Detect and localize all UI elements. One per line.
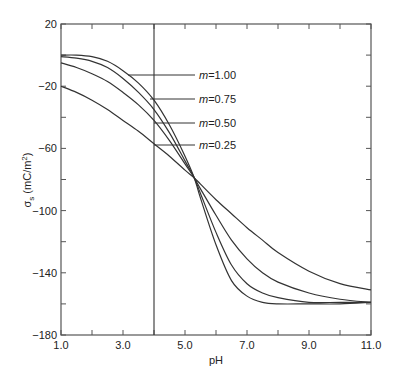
y-tick-label: 20 <box>45 18 57 30</box>
x-tick-label: 7.0 <box>239 339 254 351</box>
legend-label: m=0.75 <box>199 93 236 105</box>
y-tick-label: −100 <box>32 205 57 217</box>
y-tick-label: −20 <box>38 80 57 92</box>
legend-label: m=0.50 <box>199 117 236 129</box>
y-tick-label: −180 <box>32 329 57 341</box>
x-tick-label: 3.0 <box>115 339 130 351</box>
legend-label-variable: m <box>199 139 208 151</box>
y-tick-label: −140 <box>32 267 57 279</box>
legend-label-value: =0.25 <box>208 139 236 151</box>
chart: 1.03.05.07.09.011.0 20−20−60−100−140−180… <box>0 0 400 383</box>
x-tick-label: 11.0 <box>361 339 382 351</box>
legend-label-value: =1.00 <box>208 69 236 81</box>
legend-label-variable: m <box>199 117 208 129</box>
y-axis-label-close: ) <box>21 153 33 157</box>
legend-label-value: =0.75 <box>208 93 236 105</box>
y-axis-tick-labels: 20−20−60−100−140−180 <box>32 18 57 341</box>
x-tick-label: 5.0 <box>177 339 192 351</box>
x-tick-label: 9.0 <box>301 339 316 351</box>
x-axis-tick-labels: 1.03.05.07.09.011.0 <box>53 339 381 351</box>
x-axis-label: pH <box>209 354 223 366</box>
y-tick-label: −60 <box>38 142 57 154</box>
legend-label-value: =0.50 <box>208 117 236 129</box>
legend-label-variable: m <box>199 69 208 81</box>
y-axis-label: σs (mC/m2) <box>20 153 36 208</box>
y-axis-label-unit: (mC/m <box>21 161 33 197</box>
legend-label: m=0.25 <box>199 139 236 151</box>
legend-label: m=1.00 <box>199 69 236 81</box>
legend-label-variable: m <box>199 93 208 105</box>
